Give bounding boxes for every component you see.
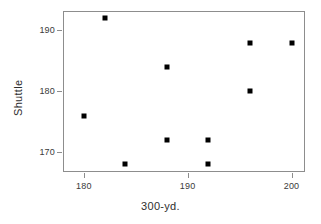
- x-tick-mark: [188, 173, 189, 178]
- data-point: [81, 113, 86, 118]
- data-point: [248, 89, 253, 94]
- y-tick-label: 170: [29, 147, 55, 157]
- data-point: [102, 16, 107, 21]
- plot-area-frame: [63, 11, 305, 172]
- data-point: [206, 162, 211, 167]
- x-tick-label: 200: [284, 181, 300, 191]
- data-point: [206, 137, 211, 142]
- x-tick-label: 190: [180, 181, 196, 191]
- data-point: [289, 40, 294, 45]
- y-tick-label: 190: [29, 25, 55, 35]
- y-tick-mark: [57, 91, 62, 92]
- x-axis-title: 300-yd.: [0, 200, 321, 212]
- data-point: [123, 162, 128, 167]
- scatter-plot-figure: 180190200 170180190 300-yd. Shuttle: [0, 0, 321, 224]
- data-point: [248, 40, 253, 45]
- y-tick-mark: [57, 30, 62, 31]
- x-tick-mark: [292, 173, 293, 178]
- y-tick-mark: [57, 152, 62, 153]
- data-point: [164, 137, 169, 142]
- x-tick-mark: [84, 173, 85, 178]
- y-tick-label: 180: [29, 86, 55, 96]
- x-tick-label: 180: [76, 181, 92, 191]
- data-point: [164, 64, 169, 69]
- y-axis-title: Shuttle: [12, 80, 24, 116]
